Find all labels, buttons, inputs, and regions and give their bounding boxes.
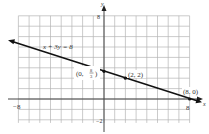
svg-text:(0,: (0, xyxy=(76,70,84,78)
x-tick-max: 8 xyxy=(186,104,190,112)
y-tick-max: 8 xyxy=(97,14,100,20)
svg-text:(2, 2): (2, 2) xyxy=(128,71,144,79)
line-left-arrow-icon xyxy=(8,39,15,44)
line-graph: y x −8 8 8 −2 x + 3y = 8 (0, 8 3 ) (2, 2… xyxy=(0,0,209,134)
x-axis-label: x xyxy=(202,101,206,107)
svg-text:(8, 0): (8, 0) xyxy=(183,88,199,96)
y-tick-min: −2 xyxy=(96,118,102,124)
point-2-2 xyxy=(124,77,127,80)
point-8-0 xyxy=(188,97,191,100)
equation-label: x + 3y = 8 xyxy=(42,43,73,51)
point-label-8-0: (8, 0) xyxy=(182,87,203,96)
point-label-2-2: (2, 2) xyxy=(127,70,146,79)
x-tick-min: −8 xyxy=(13,103,21,111)
point-0-8-3 xyxy=(102,70,105,73)
axes: y x −8 8 8 −2 xyxy=(8,1,206,132)
point-label-0-8-3: (0, 8 3 ) xyxy=(74,66,100,80)
y-axis-label: y xyxy=(100,1,104,7)
